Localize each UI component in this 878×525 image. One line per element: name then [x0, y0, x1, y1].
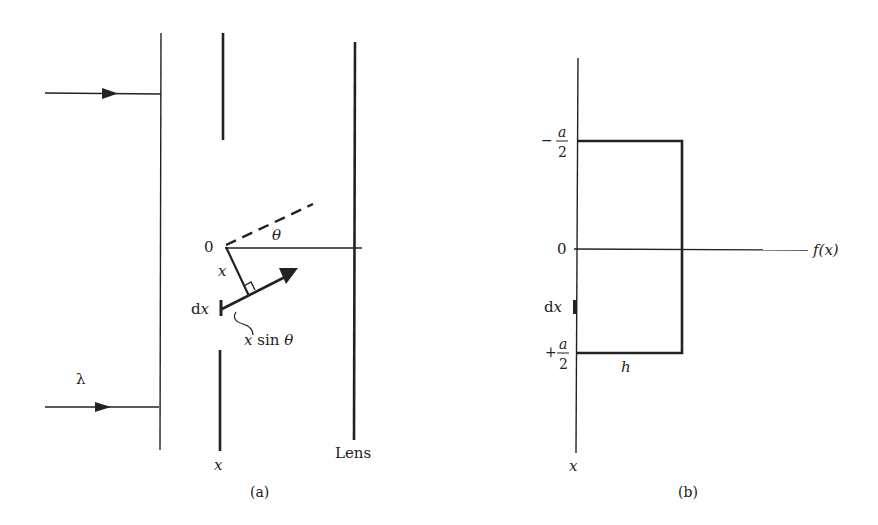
slit-axis-label: x [214, 456, 223, 474]
vertical-axis-label: x [569, 457, 578, 475]
diffraction-figure: λ x Lens 0 θ x dx x sin θ (a) x [0, 0, 878, 525]
svg-text:+: + [545, 344, 557, 360]
zero-label: 0 [557, 240, 567, 258]
element-dx-label-b: dx [544, 298, 563, 316]
arrowhead-icon [279, 268, 298, 284]
diffracted-ray [222, 277, 285, 309]
distance-x-label: x [218, 262, 227, 280]
horizontal-axis-label: f(x) [812, 241, 839, 259]
path-difference-label: x sin θ [244, 331, 293, 349]
lens-label: Lens [335, 444, 371, 462]
element-dx-label: dx [191, 300, 210, 318]
wavelength-label: λ [76, 370, 86, 388]
arrowhead-icon [102, 88, 118, 99]
bottom-edge-label: + a 2 [545, 336, 569, 372]
arrowhead-icon [95, 402, 111, 412]
incident-ray-bottom [45, 402, 159, 412]
vertical-axis-x [576, 58, 578, 453]
figure-b: x f(x) 0 − a 2 + a 2 dx h (b) [541, 58, 839, 500]
svg-text:−: − [541, 132, 553, 148]
perpendicular-line [226, 247, 249, 296]
svg-text:2: 2 [558, 144, 567, 160]
svg-text:a: a [559, 336, 567, 352]
svg-text:a: a [558, 124, 566, 140]
incident-ray-top [45, 88, 161, 99]
figure-a: λ x Lens 0 θ x dx x sin θ (a) [45, 33, 371, 500]
horizontal-axis [574, 249, 808, 250]
aperture-function-rect [577, 141, 682, 353]
height-label: h [621, 358, 631, 376]
caption-a: (a) [250, 484, 269, 500]
angle-theta-label: θ [272, 226, 281, 244]
caption-b: (b) [678, 484, 698, 500]
diffracted-direction-dashed [226, 204, 313, 245]
origin-label: 0 [204, 238, 214, 256]
svg-text:2: 2 [559, 356, 568, 372]
wavefront-line [160, 33, 161, 450]
lens-line [354, 42, 355, 440]
top-edge-label: − a 2 [541, 124, 568, 160]
